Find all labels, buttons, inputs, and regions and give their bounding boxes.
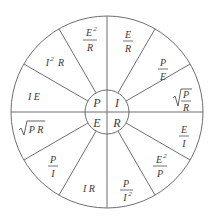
svg-text:P: P: [156, 168, 163, 179]
svg-text:I R: I R: [82, 183, 95, 194]
radial-line-30: [118, 29, 155, 93]
svg-text:E: E: [85, 27, 92, 38]
svg-text:E: E: [124, 29, 131, 40]
svg-text:P: P: [182, 89, 189, 100]
svg-text:I: I: [45, 57, 50, 68]
sector-p-over-e: P E: [158, 57, 168, 82]
sector-i-r: I R: [82, 183, 95, 194]
svg-text:E: E: [159, 71, 166, 82]
sector-sqrt-p-r: P R: [19, 121, 45, 135]
sector-p-over-i: P I: [48, 154, 58, 179]
svg-text:R: R: [124, 43, 131, 54]
sector-e-over-i: E I: [179, 124, 189, 149]
radial-line-60: [126, 64, 190, 101]
svg-text:E: E: [180, 124, 187, 135]
svg-text:P: P: [49, 154, 56, 165]
sector-sqrt-p-over-r: P R: [173, 89, 192, 113]
sector-i-e: I E: [27, 91, 40, 102]
center-label-i: I: [114, 96, 120, 110]
center-label-p: P: [92, 96, 101, 110]
svg-text:P R: P R: [28, 124, 44, 135]
svg-text:2: 2: [93, 25, 97, 33]
sector-i-squared-r: I 2 R: [45, 55, 64, 68]
sector-p-over-i-squared: P I 2: [120, 178, 133, 203]
svg-text:E: E: [155, 154, 162, 165]
svg-text:P: P: [122, 178, 129, 189]
svg-text:I: I: [50, 168, 55, 179]
center-label-r: R: [112, 116, 121, 130]
svg-text:R: R: [57, 57, 64, 68]
center-label-e: E: [92, 116, 101, 130]
svg-text:2: 2: [50, 55, 54, 63]
svg-text:I: I: [181, 138, 186, 149]
svg-text:I E: I E: [27, 91, 40, 102]
svg-text:I: I: [122, 192, 127, 203]
svg-text:2: 2: [128, 190, 132, 198]
svg-text:2: 2: [163, 152, 167, 160]
radial-line-330: [59, 29, 96, 93]
svg-text:R: R: [86, 42, 93, 53]
sector-e-squared-over-r: E 2 R: [83, 25, 97, 53]
svg-text:R: R: [182, 102, 189, 113]
sector-e-squared-over-p: E 2 P: [153, 152, 167, 179]
ohms-law-wheel: P I E R E R P E P R E I: [0, 0, 214, 222]
svg-text:P: P: [159, 57, 166, 68]
sector-e-over-r: E R: [123, 29, 133, 54]
